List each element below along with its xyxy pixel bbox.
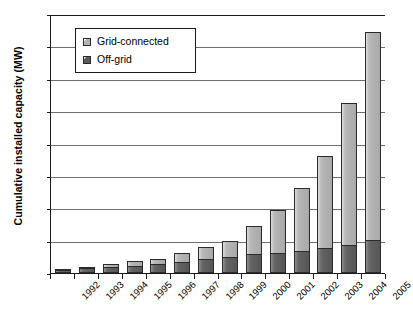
x-tick-label-1996: 1996 — [175, 279, 198, 302]
bar-stack-2004[interactable] — [341, 103, 357, 273]
x-tick-label-1998: 1998 — [223, 279, 246, 302]
x-tick-label-1994: 1994 — [127, 279, 150, 302]
bar-segment-off-grid-2005[interactable] — [365, 240, 381, 273]
bar-segment-grid-connected-2000[interactable] — [246, 226, 262, 254]
chart-legend: Grid-connected Off-grid — [75, 28, 196, 73]
bar-column-2002[interactable] — [290, 15, 314, 273]
bar-column-2004[interactable] — [337, 15, 361, 273]
bar-segment-off-grid-2001[interactable] — [270, 253, 286, 273]
x-tick-label-1992: 1992 — [79, 279, 102, 302]
x-tick-label-1999: 1999 — [247, 279, 270, 302]
legend-label-grid-connected: Grid-connected — [97, 36, 169, 47]
bar-segment-off-grid-1992[interactable] — [55, 270, 71, 273]
bar-stack-1998[interactable] — [198, 247, 214, 273]
x-tick-label-2005: 2005 — [390, 279, 413, 302]
bar-stack-1995[interactable] — [127, 261, 143, 273]
bar-column-2003[interactable] — [313, 15, 337, 273]
x-tick-label-1995: 1995 — [151, 279, 174, 302]
x-tick-label-2002: 2002 — [318, 279, 341, 302]
bar-segment-off-grid-2002[interactable] — [294, 251, 310, 273]
x-tick-mark-14 — [385, 274, 386, 279]
x-tick-label-2000: 2000 — [271, 279, 294, 302]
bar-segment-grid-connected-1997[interactable] — [174, 253, 190, 261]
legend-item-off-grid: Off-grid — [83, 52, 189, 67]
x-tick-label-2004: 2004 — [366, 279, 389, 302]
bar-segment-grid-connected-2001[interactable] — [270, 210, 286, 253]
x-axis-tick-labels: 1992199319941995199619971998199920002001… — [50, 279, 385, 317]
bar-segment-off-grid-1999[interactable] — [222, 257, 238, 273]
bar-segment-off-grid-1995[interactable] — [127, 266, 143, 273]
x-tick-label-2001: 2001 — [295, 279, 318, 302]
bar-segment-off-grid-1993[interactable] — [79, 268, 95, 273]
bar-segment-off-grid-2000[interactable] — [246, 254, 262, 273]
bar-segment-grid-connected-2004[interactable] — [341, 103, 357, 244]
bar-column-2000[interactable] — [242, 15, 266, 273]
x-tick-label-2003: 2003 — [342, 279, 365, 302]
y-axis-title: Cumulative installed capacity (MW) — [12, 11, 24, 261]
bar-segment-off-grid-2004[interactable] — [341, 245, 357, 273]
bar-segment-grid-connected-2003[interactable] — [317, 156, 333, 247]
x-tick-label-1997: 1997 — [199, 279, 222, 302]
bar-column-1998[interactable] — [194, 15, 218, 273]
bar-column-1999[interactable] — [218, 15, 242, 273]
legend-swatch-icon-off-grid — [83, 56, 91, 64]
bar-segment-off-grid-2003[interactable] — [317, 248, 333, 273]
bar-segment-grid-connected-1999[interactable] — [222, 241, 238, 257]
bar-column-2001[interactable] — [266, 15, 290, 273]
bar-segment-off-grid-1996[interactable] — [150, 264, 166, 273]
bar-stack-2001[interactable] — [270, 210, 286, 273]
bar-stack-2005[interactable] — [365, 32, 381, 273]
legend-item-grid-connected: Grid-connected — [83, 34, 189, 49]
bar-segment-off-grid-1994[interactable] — [103, 267, 119, 273]
bar-column-1992[interactable] — [51, 15, 75, 273]
bar-segment-off-grid-1998[interactable] — [198, 259, 214, 273]
bar-column-2005[interactable] — [361, 15, 385, 273]
bar-segment-grid-connected-2005[interactable] — [365, 32, 381, 240]
legend-label-off-grid: Off-grid — [97, 54, 132, 65]
bar-stack-1999[interactable] — [222, 241, 238, 273]
bar-stack-1996[interactable] — [150, 259, 166, 273]
bar-stack-1994[interactable] — [103, 264, 119, 273]
bar-stack-1993[interactable] — [79, 267, 95, 273]
bar-stack-2002[interactable] — [294, 188, 310, 273]
bar-stack-1992[interactable] — [55, 269, 71, 273]
bar-stack-2003[interactable] — [317, 156, 333, 273]
x-tick-label-1993: 1993 — [103, 279, 126, 302]
bar-stack-1997[interactable] — [174, 253, 190, 273]
legend-swatch-icon-grid-connected — [83, 38, 91, 46]
bar-stack-2000[interactable] — [246, 226, 262, 273]
bar-segment-grid-connected-1998[interactable] — [198, 247, 214, 259]
bar-segment-grid-connected-2002[interactable] — [294, 188, 310, 251]
bar-segment-off-grid-1997[interactable] — [174, 262, 190, 273]
